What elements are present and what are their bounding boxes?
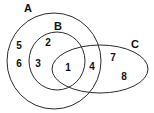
region-label-8: 8 bbox=[121, 71, 127, 82]
venn-diagram-canvas: A B C 1 2 3 4 5 6 7 8 bbox=[0, 0, 154, 113]
region-label-5: 5 bbox=[16, 40, 22, 51]
region-label-1: 1 bbox=[65, 62, 71, 73]
region-label-4: 4 bbox=[89, 61, 95, 72]
venn-diagram-container: A B C 1 2 3 4 5 6 7 8 bbox=[0, 0, 154, 113]
set-label-b: B bbox=[54, 20, 62, 32]
region-label-7: 7 bbox=[110, 52, 116, 63]
set-label-a: A bbox=[24, 2, 32, 14]
region-label-2: 2 bbox=[45, 37, 51, 48]
region-label-3: 3 bbox=[35, 58, 41, 69]
region-label-6: 6 bbox=[16, 58, 22, 69]
set-label-c: C bbox=[131, 38, 139, 50]
